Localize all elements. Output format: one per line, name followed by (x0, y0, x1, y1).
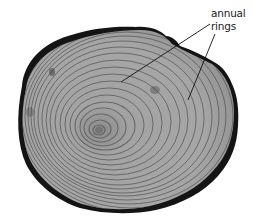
figure: annual rings (0, 0, 253, 224)
label-annual: annual (211, 7, 246, 19)
tree-cross-section (0, 0, 253, 224)
label-rings: rings (211, 20, 236, 32)
pith (95, 127, 103, 134)
